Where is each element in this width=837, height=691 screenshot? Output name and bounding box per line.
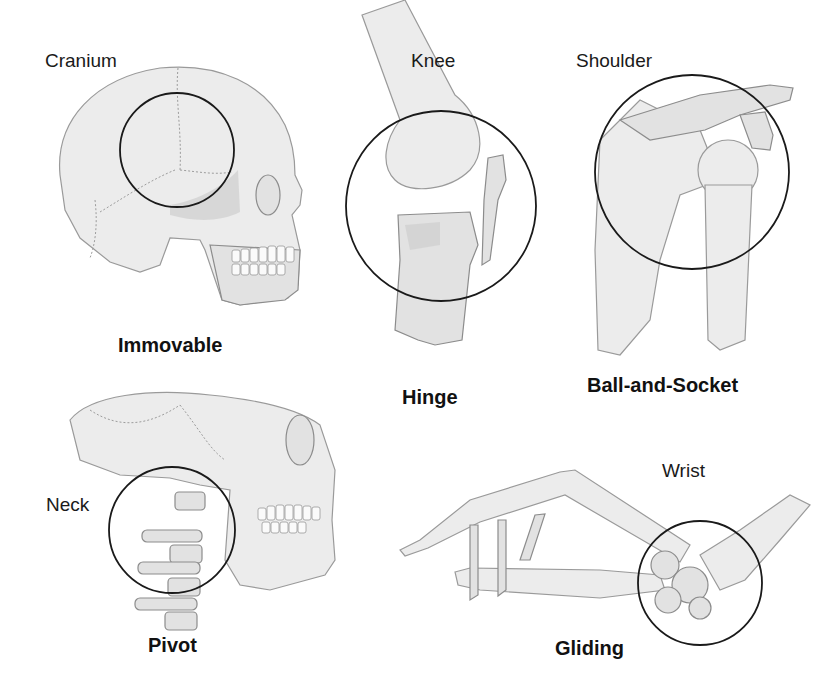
region-label-shoulder: Shoulder — [576, 50, 652, 72]
joint-type-immovable: Immovable — [118, 334, 222, 357]
teeth — [232, 246, 294, 275]
region-label-cranium: Cranium — [45, 50, 117, 72]
region-label-wrist: Wrist — [662, 460, 705, 482]
joint-type-hinge: Hinge — [402, 386, 458, 409]
region-label-knee: Knee — [411, 50, 455, 72]
joint-type-pivot: Pivot — [148, 634, 197, 657]
region-label-neck: Neck — [46, 494, 89, 516]
cervical-vertebrae — [135, 492, 205, 630]
hand-wrist-illustration — [400, 470, 810, 645]
joint-type-ball-and-socket: Ball-and-Socket — [587, 374, 738, 397]
skull-lateral-illustration — [60, 67, 302, 305]
shoulder-illustration — [595, 75, 793, 355]
skull-neck-illustration — [70, 392, 335, 630]
joint-type-gliding: Gliding — [555, 637, 624, 660]
